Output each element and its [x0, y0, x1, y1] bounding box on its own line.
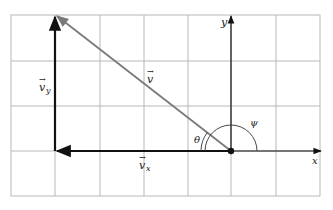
vector-vx-label: → v x [139, 153, 151, 173]
svg-text:v: v [139, 159, 146, 172]
psi-label: ψ [250, 117, 258, 128]
svg-text:v: v [39, 81, 46, 94]
vector-diagram: y x → v x → v y → v θ ψ [0, 0, 333, 210]
origin-dot [228, 148, 234, 154]
vector-v-label: → v [147, 67, 154, 86]
grid [11, 15, 320, 196]
svg-text:y: y [45, 86, 51, 95]
vector-vy-label: → v y [39, 75, 51, 95]
svg-text:x: x [146, 164, 151, 173]
x-axis-label: x [312, 155, 318, 166]
svg-text:v: v [147, 73, 154, 86]
y-axis-label: y [220, 16, 228, 29]
theta-label: θ [194, 134, 200, 145]
